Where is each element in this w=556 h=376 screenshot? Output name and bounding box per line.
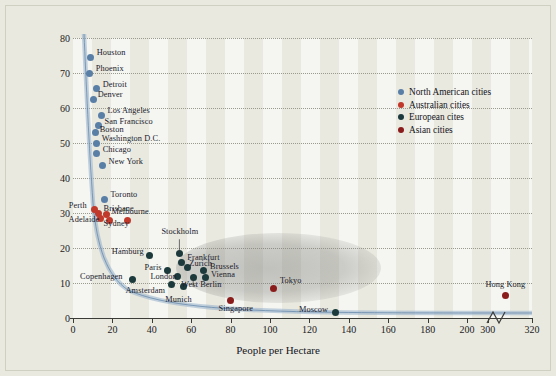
point-label: Copenhagen [80,272,122,281]
x-tick-label: 200 [460,324,475,335]
point-label: Phoenix [96,64,124,73]
x-tick-label: 80 [226,324,236,335]
point-label: Chicago [103,145,131,154]
x-tick-mark [112,318,113,323]
point-label: Vienna [211,270,235,279]
point-label: Perth [69,201,87,210]
legend-label: North American cities [409,87,491,97]
data-point [200,267,207,274]
y-tick-label: 10 [30,278,70,289]
point-label: Singapore [219,304,254,313]
trend-curve [73,38,532,318]
y-axis: 01020304050607080 Annual Petrol Consumpt… [73,38,74,318]
legend-label: European cites [409,112,464,122]
point-label: Boston [100,125,124,134]
x-tick-label: 100 [263,324,278,335]
legend-marker-icon [398,114,404,120]
x-tick-mark [388,318,389,323]
figure-frame: HoustonPhoenixDetroitDenverLos AngelesSa… [5,5,551,371]
point-label: Denver [98,90,123,99]
point-label: West Berlin [181,280,221,289]
point-label: Hong Kong [485,280,525,289]
legend-item[interactable]: Asian cities [398,124,491,137]
x-tick-label: 320 [525,324,540,335]
data-point [86,70,93,77]
x-tick-label: 120 [302,324,317,335]
point-label: New York [109,157,143,166]
x-tick-label: 40 [147,324,157,335]
point-label: Paris [145,263,162,272]
point-label: Hamburg [112,247,144,256]
point-label: Tokyo [280,276,302,285]
legend-label: Asian cities [409,125,453,135]
point-label: Los Angeles [108,106,150,115]
plot-area: HoustonPhoenixDetroitDenverLos AngelesSa… [73,38,532,318]
legend-item[interactable]: Australian cities [398,99,491,112]
point-label: Detroit [103,80,127,89]
point-label: Zurich [189,259,212,268]
data-point [146,252,153,259]
legend-marker-icon [398,102,404,108]
x-tick-label: 140 [341,324,356,335]
point-label: Melbourne [111,207,148,216]
x-axis-title: People per Hectare [6,344,550,356]
data-point [176,250,183,257]
x-tick-mark [73,318,74,323]
y-tick-label: 20 [30,243,70,254]
legend-marker-icon [398,127,404,133]
y-tick-label: 80 [30,33,70,44]
figure-canvas: HoustonPhoenixDetroitDenverLos AngelesSa… [0,0,556,376]
data-point [332,309,339,316]
x-tick-mark [152,318,153,323]
legend-label: Australian cities [409,100,470,110]
point-label: Houston [97,48,126,57]
legend-item[interactable]: European cites [398,111,491,124]
axis-break-icon [486,309,508,325]
data-point [101,196,108,203]
x-tick-label: 0 [71,324,76,335]
point-label: Toronto [111,190,138,199]
x-tick-mark [467,318,468,323]
data-point [90,96,97,103]
data-point [502,292,509,299]
point-label: London [150,272,176,281]
y-tick-label: 60 [30,103,70,114]
x-tick-mark [270,318,271,323]
point-label: Moscow [299,305,328,314]
point-label: Stockholm [161,227,198,236]
point-label: Munich [165,295,191,304]
point-label: Washington D.C. [102,134,161,143]
x-tick-label: 180 [420,324,435,335]
y-tick-label: 50 [30,138,70,149]
y-tick-label: 40 [30,173,70,184]
point-label: Sydney [103,219,129,228]
legend-marker-icon [398,89,404,95]
data-point [87,54,94,61]
x-tick-label: 60 [186,324,196,335]
x-tick-mark [349,318,350,323]
x-tick-mark [532,318,533,323]
legend-item[interactable]: North American cities [398,86,491,99]
x-tick-label: 20 [107,324,117,335]
data-point [129,276,136,283]
y-tick-label: 30 [30,208,70,219]
y-tick-label: 70 [30,68,70,79]
legend: North American citiesAustralian citiesEu… [398,86,491,136]
x-tick-mark [428,318,429,323]
point-label: Amsterdam [126,286,166,295]
data-point [93,140,100,147]
x-tick-mark [191,318,192,323]
x-tick-label: 160 [381,324,396,335]
x-tick-mark [231,318,232,323]
x-tick-mark [309,318,310,323]
x-axis-line [70,318,532,319]
x-tick-label: 300 [480,324,495,335]
y-tick-label: 0 [30,313,70,324]
